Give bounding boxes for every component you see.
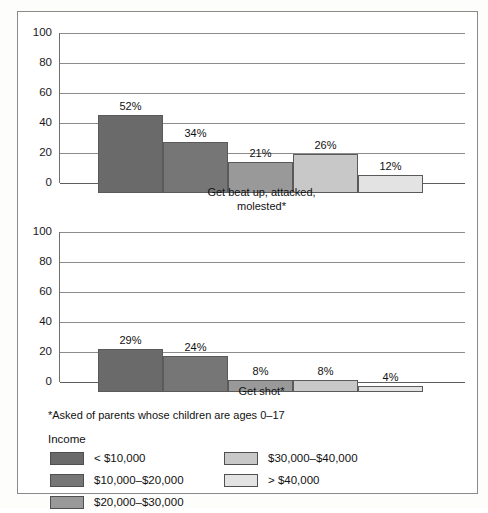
y-axis-tick-0-bottom: 0 <box>23 376 59 388</box>
y-axis-tick-60-bottom: 60 <box>23 286 59 298</box>
plot-wrap-bottom: 100806040200 29%24%8%8%4% <box>59 232 464 392</box>
y-axis-tick-40-top: 40 <box>23 117 59 129</box>
bar-value-label: 21% <box>228 148 293 159</box>
legend-column-1: < $10,000$10,000–$20,000$20,000–$30,000 <box>50 448 184 513</box>
bar-slot: 4% <box>358 242 423 392</box>
x-axis-caption-line: molested* <box>59 200 464 214</box>
bar-slot: 12% <box>358 43 423 193</box>
bar-slot: 52% <box>98 43 163 193</box>
y-axis-tick-80-bottom: 80 <box>23 256 59 268</box>
legend-item-label: < $10,000 <box>94 452 145 464</box>
legend-item: $20,000–$30,000 <box>50 492 184 512</box>
footnote: *Asked of parents whose children are age… <box>48 409 285 421</box>
x-axis-caption-top: Get beat up, attacked,molested* <box>59 186 464 214</box>
gridline-100-top <box>60 33 465 34</box>
legend-item: $10,000–$20,000 <box>50 470 184 490</box>
bar-slot: 24% <box>163 242 228 392</box>
legend-swatch-10000-20000 <box>50 474 84 487</box>
legend-swatch-under-10000 <box>50 452 84 465</box>
y-axis-tick-100-bottom: 100 <box>23 226 59 238</box>
y-axis-tick-60-top: 60 <box>23 87 59 99</box>
bar-value-label: 8% <box>228 366 293 377</box>
bar-value-label: 34% <box>163 128 228 139</box>
y-axis-tick-40-bottom: 40 <box>23 316 59 328</box>
bar-slot: 26% <box>293 43 358 193</box>
legend-item-label: > $40,000 <box>268 474 319 486</box>
bar-value-label: 26% <box>293 140 358 151</box>
legend-swatch-30000-40000 <box>224 452 258 465</box>
legend-item-label: $30,000–$40,000 <box>268 452 358 464</box>
bar-slot: 29% <box>98 242 163 392</box>
y-axis-tick-80-top: 80 <box>23 57 59 69</box>
bar-slot: 8% <box>293 242 358 392</box>
bar-value-label: 52% <box>98 101 163 112</box>
x-axis-caption-bottom: Get shot* <box>59 385 464 399</box>
gridline-100-bottom <box>60 232 465 233</box>
legend-item-label: $10,000–$20,000 <box>94 474 184 486</box>
legend-column-2: $30,000–$40,000> $40,000 <box>224 448 358 492</box>
bar-slot: 8% <box>228 242 293 392</box>
chart-panel-getshot: 100806040200 29%24%8%8%4% Get shot* <box>18 222 479 410</box>
chart-panel-beatup: 100806040200 52%34%21%26%12% Get beat up… <box>18 23 479 211</box>
bar-value-label: 4% <box>358 372 423 383</box>
x-axis-caption-line: Get beat up, attacked, <box>59 186 464 200</box>
legend-item: < $10,000 <box>50 448 184 468</box>
x-axis-caption-line: Get shot* <box>59 385 464 399</box>
y-axis-tick-20-top: 20 <box>23 147 59 159</box>
bar-slot: 34% <box>163 43 228 193</box>
legend-swatch-over-40000 <box>224 474 258 487</box>
legend-columns: < $10,000$10,000–$20,000$20,000–$30,000 … <box>48 448 468 508</box>
y-axis-tick-100-top: 100 <box>23 27 59 39</box>
bar-value-label: 29% <box>98 335 163 346</box>
bar-group-bottom: 29%24%8%8%4% <box>98 242 423 392</box>
bar-value-label: 12% <box>358 161 423 172</box>
bar-group-top: 52%34%21%26%12% <box>98 43 423 193</box>
legend-title: Income <box>48 433 468 445</box>
legend-item: > $40,000 <box>224 470 358 490</box>
legend-swatch-20000-30000 <box>50 496 84 509</box>
legend-item: $30,000–$40,000 <box>224 448 358 468</box>
figure-frame: 100806040200 52%34%21%26%12% Get beat up… <box>17 11 478 494</box>
bar-value-label: 24% <box>163 342 228 353</box>
legend: Income < $10,000$10,000–$20,000$20,000–$… <box>48 433 468 508</box>
bar-value-label: 8% <box>293 366 358 377</box>
y-axis-tick-20-bottom: 20 <box>23 346 59 358</box>
bar-slot: 21% <box>228 43 293 193</box>
bar <box>98 115 163 193</box>
y-axis-tick-0-top: 0 <box>23 177 59 189</box>
plot-wrap-top: 100806040200 52%34%21%26%12% <box>59 33 464 193</box>
legend-item-label: $20,000–$30,000 <box>94 496 184 508</box>
